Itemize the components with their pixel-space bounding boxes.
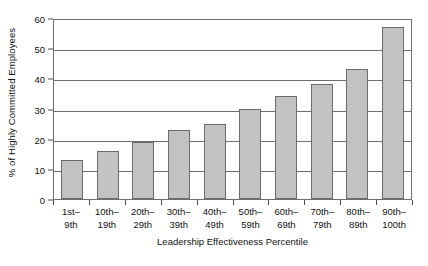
y-axis-tick-label: 0 (40, 195, 45, 206)
bar[interactable] (346, 69, 368, 199)
bar-slot (268, 20, 304, 199)
bar-slot (125, 20, 161, 199)
x-axis-tick-label: 40th–49th (197, 205, 233, 235)
x-axis-tick-label-line1: 30th– (167, 206, 191, 217)
bar-slot (340, 20, 376, 199)
x-axis-tick-label: 20th–29th (125, 205, 161, 235)
x-axis-tick-label-line2: 9th (53, 218, 89, 231)
bar[interactable] (97, 151, 119, 199)
x-axis-tick-label-line2: 69th (268, 218, 304, 231)
x-axis-tick-label-line2: 79th (304, 218, 340, 231)
bar-slot (54, 20, 90, 199)
y-axis-title-text: % of Highly Committed Employees (7, 28, 18, 177)
bar-chart: % of Highly Committed Employees 01020304… (0, 0, 428, 266)
bar[interactable] (168, 130, 190, 199)
plot-area (53, 19, 412, 200)
x-axis-tick-label-line2: 100th (376, 218, 412, 231)
y-axis-tick-label: 10 (34, 164, 45, 175)
x-axis-tick-label-line2: 89th (340, 218, 376, 231)
y-axis-tick-label: 50 (34, 44, 45, 55)
x-axis-tick-label-line2: 29th (125, 218, 161, 231)
bar-slot (375, 20, 411, 199)
x-axis-tick-mark (412, 200, 413, 205)
x-axis-tick-label-line1: 90th– (382, 206, 406, 217)
y-axis-tick-label: 40 (34, 74, 45, 85)
x-axis-tick-label-line1: 50th– (239, 206, 263, 217)
x-axis-tick-labels: 1st–9th10th–19th20th–29th30th–39th40th–4… (53, 205, 412, 235)
x-axis-tick-label: 50th–59th (233, 205, 269, 235)
x-axis-tick-label-line2: 39th (161, 218, 197, 231)
x-axis-tick-label-line2: 49th (197, 218, 233, 231)
bar[interactable] (61, 160, 83, 199)
bar[interactable] (275, 96, 297, 199)
x-axis-tick-label-line2: 59th (233, 218, 269, 231)
bar[interactable] (311, 84, 333, 199)
bar-slot (197, 20, 233, 199)
bar[interactable] (239, 109, 261, 200)
y-axis-tick-label: 30 (34, 104, 45, 115)
bar-slot (90, 20, 126, 199)
x-axis-tick-label: 10th–19th (89, 205, 125, 235)
y-axis-tick-label: 60 (34, 14, 45, 25)
bar-slot (233, 20, 269, 199)
x-axis-tick-label-line1: 80th– (346, 206, 370, 217)
bars-group (54, 20, 411, 199)
x-axis-tick-label-line1: 20th– (131, 206, 155, 217)
y-axis-tick-label: 20 (34, 134, 45, 145)
x-axis-tick-label-line1: 70th– (310, 206, 334, 217)
bar[interactable] (204, 124, 226, 199)
x-axis-title: Leadership Effectiveness Percentile (53, 236, 412, 247)
bar-slot (304, 20, 340, 199)
x-axis-tick-label: 90th–100th (376, 205, 412, 235)
y-axis-title: % of Highly Committed Employees (0, 0, 24, 205)
bar-slot (161, 20, 197, 199)
bar[interactable] (382, 27, 404, 199)
x-axis-tick-label-line2: 19th (89, 218, 125, 231)
x-axis-tick-label: 1st–9th (53, 205, 89, 235)
x-axis-tick-label-line1: 1st– (62, 206, 80, 217)
bar[interactable] (132, 142, 154, 199)
x-axis-tick-label-line1: 10th– (95, 206, 119, 217)
x-axis-tick-label-line1: 60th– (275, 206, 299, 217)
x-axis-tick-label: 80th–89th (340, 205, 376, 235)
y-axis-tick-labels: 0102030405060 (22, 19, 48, 200)
x-axis-tick-label: 70th–79th (304, 205, 340, 235)
x-axis-tick-label-line1: 40th– (203, 206, 227, 217)
x-axis-tick-label: 30th–39th (161, 205, 197, 235)
x-axis-tick-label: 60th–69th (268, 205, 304, 235)
